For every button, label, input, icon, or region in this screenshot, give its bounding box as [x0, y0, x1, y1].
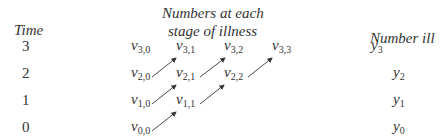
arrow-v21-v32: [200, 58, 225, 77]
arrow-v10-v21: [152, 85, 176, 104]
arrow-v22-v33: [248, 58, 272, 77]
arrow-v20-v31: [152, 58, 176, 77]
arrow-v00-v11: [152, 112, 176, 131]
transition-arrows: [0, 0, 443, 139]
arrow-v11-v22: [200, 85, 224, 104]
